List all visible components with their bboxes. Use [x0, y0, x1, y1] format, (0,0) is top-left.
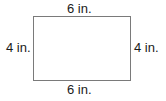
right-side-label: 4 in.: [134, 41, 159, 54]
left-side-label: 4 in.: [6, 41, 31, 54]
rectangle-shape: [33, 16, 131, 81]
bottom-side-label: 6 in.: [67, 83, 92, 96]
top-side-label: 6 in.: [67, 2, 92, 15]
